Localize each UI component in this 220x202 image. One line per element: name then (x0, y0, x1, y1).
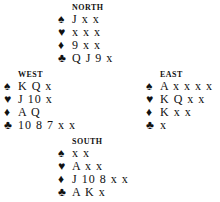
east-hand: EAST ♠A x x x x ♥K Q x x ♦K x x ♣x (146, 69, 213, 132)
south-label: SOUTH (58, 136, 129, 147)
east-clubs: ♣x (146, 119, 213, 132)
south-clubs: ♣A K x (58, 186, 129, 199)
east-diamonds: ♦K x x (146, 106, 213, 119)
club-icon: ♣ (58, 52, 72, 65)
west-clubs: ♣10 8 7 x x (4, 119, 76, 132)
south-hand: SOUTH ♠x x ♥A x x ♦J 10 8 x x ♣A K x (58, 136, 129, 199)
north-hand: NORTH ♠J x x ♥x x x ♦9 x x ♣Q J 9 x (58, 2, 113, 65)
club-icon: ♣ (58, 186, 72, 199)
club-icon: ♣ (4, 119, 18, 132)
north-clubs: ♣Q J 9 x (58, 52, 113, 65)
club-icon: ♣ (146, 119, 160, 132)
west-hand: WEST ♠K Q x ♥J 10 x ♦A Q ♣10 8 7 x x (4, 69, 76, 132)
